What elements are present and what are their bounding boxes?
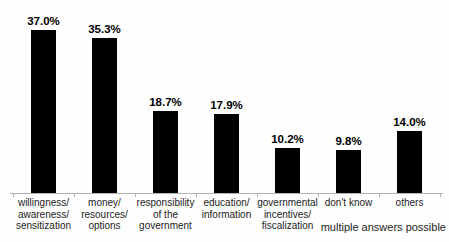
chart-note: multiple answers possible	[321, 221, 446, 233]
category-label: money/resources/options	[74, 197, 135, 232]
category-label-line: education/	[196, 197, 257, 209]
bar-column: 9.8%	[318, 135, 379, 193]
axis-tick	[440, 193, 441, 197]
category-label-line: don't know	[318, 197, 379, 209]
category-label-line: governmental	[257, 197, 318, 209]
category-label-line: of the	[135, 209, 196, 221]
bar-column: 17.9%	[196, 99, 257, 193]
bar-value-label: 14.0%	[393, 116, 426, 128]
x-axis-line	[10, 193, 443, 194]
bar-column: 14.0%	[379, 116, 440, 193]
category-label-line: government	[135, 220, 196, 232]
bar	[336, 150, 361, 193]
bar-chart-figure: 37.0%35.3%18.7%17.9%10.2%9.8%14.0% willi…	[0, 0, 449, 242]
category-label: responsibilityof thegovernment	[135, 197, 196, 232]
bar	[397, 131, 422, 193]
category-label-line: incentives/	[257, 209, 318, 221]
category-label-line: information	[196, 209, 257, 221]
bar-value-label: 17.9%	[210, 99, 243, 111]
category-label-line: responsibility	[135, 197, 196, 209]
bar-column: 35.3%	[74, 23, 135, 193]
bar	[275, 148, 300, 193]
plot-area: 37.0%35.3%18.7%17.9%10.2%9.8%14.0%	[13, 0, 440, 193]
bar	[92, 38, 117, 193]
bar-column: 18.7%	[135, 96, 196, 193]
bar	[31, 30, 56, 193]
category-label-line: resources/	[74, 209, 135, 221]
bar-value-label: 18.7%	[149, 96, 182, 108]
bar	[214, 114, 239, 193]
bar-value-label: 10.2%	[271, 133, 304, 145]
category-label-line: willingness/	[13, 197, 74, 209]
bar-column: 10.2%	[257, 133, 318, 193]
category-label-line: sensitization	[13, 220, 74, 232]
category-label-line: awareness/	[13, 209, 74, 221]
category-label: willingness/awareness/sensitization	[13, 197, 74, 232]
bar-value-label: 37.0%	[27, 15, 60, 27]
bar-value-label: 9.8%	[335, 135, 361, 147]
category-label-line: fiscalization	[257, 220, 318, 232]
category-label-line: money/	[74, 197, 135, 209]
bar	[153, 111, 178, 193]
category-label-line: others	[379, 197, 440, 209]
bar-value-label: 35.3%	[88, 23, 121, 35]
category-label-line: options	[74, 220, 135, 232]
bar-column: 37.0%	[13, 15, 74, 193]
category-label: governmentalincentives/fiscalization	[257, 197, 318, 232]
category-label: education/information	[196, 197, 257, 232]
